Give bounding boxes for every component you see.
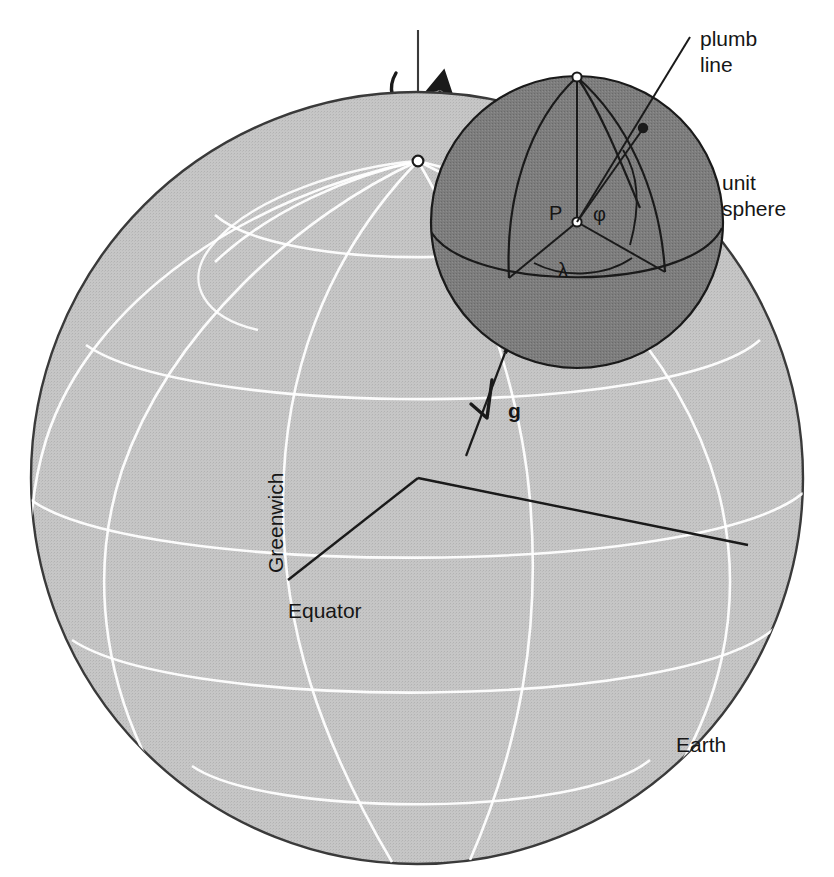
lambda-label: λ (558, 259, 568, 281)
unit-sphere-pole-marker (572, 72, 581, 81)
equator-label: Equator (288, 599, 362, 622)
unit-sphere-label-line1: unit (722, 171, 756, 194)
plumb-point-marker (639, 124, 648, 133)
gravity-label: g (508, 399, 521, 422)
phi-label: φ (593, 203, 606, 225)
earth-label: Earth (676, 733, 726, 756)
north-pole-marker (413, 156, 424, 167)
plumb-line-label-line2: line (700, 53, 733, 76)
unit-sphere-label-line2: sphere (722, 197, 786, 220)
figure-canvas: plumb line unit sphere P φ λ g Equator G… (0, 0, 834, 877)
greenwich-label: Greenwich (264, 473, 287, 573)
geodesy-diagram-svg: plumb line unit sphere P φ λ g Equator G… (0, 0, 834, 877)
point-p-label: P (549, 202, 562, 224)
plumb-line-label-line1: plumb (700, 27, 757, 50)
